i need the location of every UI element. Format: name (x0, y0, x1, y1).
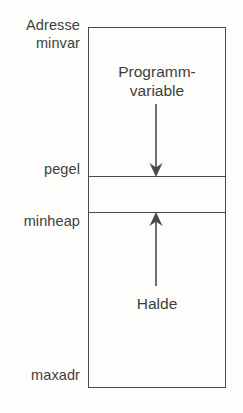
axis-label-minheap: minheap (24, 212, 80, 230)
region-label-program-variables: Programm- variable (88, 62, 226, 100)
memory-layout-diagram: Adresse minvar pegel minheap maxadr Prog… (0, 0, 243, 413)
axis-label-maxadr: maxadr (31, 366, 80, 384)
region-label-heap: Halde (88, 294, 226, 313)
arrow-down-icon (138, 104, 174, 178)
axis-label-pegel: pegel (44, 160, 80, 178)
axis-label-address-minvar: Adresse minvar (26, 16, 80, 52)
arrow-up-icon (138, 210, 174, 286)
